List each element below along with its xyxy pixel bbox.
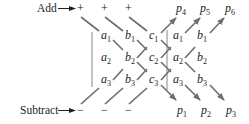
- product-p5: p5: [199, 1, 210, 17]
- diag-up-3-arrow: [210, 18, 224, 33]
- subtract-label: Subtract: [20, 104, 59, 116]
- entry-r3-c1: a3: [101, 72, 111, 88]
- product-p3: p3: [225, 103, 236, 119]
- minus-sign-1: −: [77, 103, 84, 117]
- entry-r3-c5: b3: [197, 72, 207, 88]
- minus-sign-2: −: [101, 103, 108, 117]
- diag-down-1-arrow: [161, 85, 176, 100]
- product-p2: p2: [200, 103, 211, 119]
- entry-r3-c2: b3: [125, 72, 135, 88]
- diag-down-2a: [105, 17, 123, 31]
- product-p4: p4: [175, 1, 186, 17]
- entry-r1-c3: c1: [149, 28, 158, 44]
- entry-r2-c2: b2: [125, 50, 135, 66]
- plus-sign-3: +: [125, 1, 132, 15]
- entry-r2-c5: b2: [197, 50, 207, 66]
- entry-r1-c1: a1: [101, 28, 111, 44]
- add-label: Add: [37, 2, 57, 14]
- plus-sign-1: +: [77, 1, 84, 15]
- entry-r2-c3: c2: [149, 50, 158, 66]
- diag-up-2c: [161, 47, 171, 58]
- entry-r2-c4: a2: [173, 50, 183, 66]
- diag-up-1b: [113, 69, 123, 80]
- entry-r3-c4: a3: [173, 72, 183, 88]
- sarrus-rule-diagram: Add + + + Subtract − − − a1 b1 c1 a1 b1: [0, 0, 249, 124]
- diag-up-3b: [161, 69, 171, 80]
- diag-down-3a: [129, 17, 147, 31]
- diag-down-3c: [185, 62, 195, 72]
- diag-up-1a: [81, 88, 99, 104]
- diag-up-3a: [129, 88, 147, 104]
- diag-down-1a: [81, 17, 99, 31]
- entry-r3-c3: c3: [149, 72, 158, 88]
- entry-r1-c5: b1: [197, 28, 207, 44]
- entry-r1-c4: a1: [173, 28, 183, 44]
- diag-up-3c: [185, 47, 195, 58]
- diag-down-1b: [113, 40, 123, 50]
- diag-down-2-arrow: [185, 85, 200, 100]
- diag-down-3-arrow: [210, 85, 224, 100]
- diag-up-2a: [105, 88, 123, 104]
- product-p1: p1: [176, 103, 187, 119]
- plus-sign-2: +: [101, 1, 108, 15]
- diag-up-1c: [137, 47, 147, 58]
- minus-sign-3: −: [125, 103, 132, 117]
- product-p6: p6: [224, 1, 235, 17]
- diag-up-2b: [137, 69, 147, 80]
- entry-r2-c1: a2: [101, 50, 111, 66]
- entry-r1-c2: b1: [125, 28, 135, 44]
